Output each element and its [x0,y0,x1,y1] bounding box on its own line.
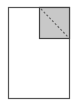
page-corner-region-icon [0,0,77,104]
page-icon-graphic [0,0,77,104]
